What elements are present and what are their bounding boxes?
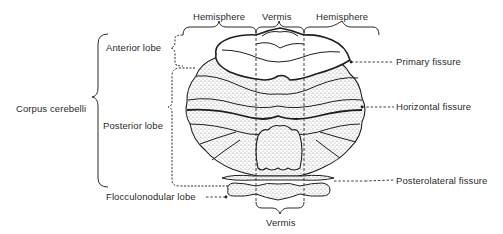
label-anterior-lobe: Anterior lobe [106, 42, 161, 53]
label-horizontal-fissure: Horizontal fissure [396, 101, 471, 112]
label-posterolateral-fissure: Posterolateral fissure [396, 175, 487, 186]
label-bottom-vermis: Vermis [266, 217, 296, 228]
label-primary-fissure: Primary fissure [396, 56, 461, 67]
cerebellum-body [186, 28, 365, 176]
label-top-vermis: Vermis [262, 11, 292, 22]
bottom-vermis-brace [256, 202, 304, 214]
label-flocculonodular-lobe: Flocculonodular lobe [106, 191, 196, 202]
flocculonodular-lobe [222, 175, 334, 200]
label-left-hemisphere: Hemisphere [193, 11, 245, 22]
label-corpus-cerebelli: Corpus cerebelli [16, 103, 86, 114]
label-right-hemisphere: Hemisphere [316, 11, 368, 22]
label-posterior-lobe: Posterior lobe [103, 120, 163, 131]
cerebellum-diagram [0, 0, 503, 234]
